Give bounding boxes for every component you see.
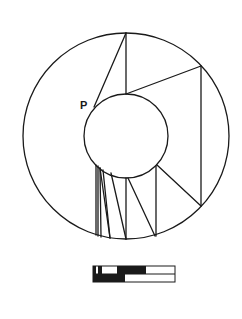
annulus-diagram: P — [0, 0, 242, 319]
chord-line — [111, 173, 126, 239]
geometric-figure — [23, 33, 229, 239]
scale-bar-segment — [98, 266, 102, 274]
chord-lines — [94, 33, 201, 239]
scale-bar-segment — [125, 274, 175, 282]
chord-line — [126, 66, 201, 94]
chord-line — [94, 33, 126, 107]
scale-bar-segment — [146, 266, 175, 274]
scale-bar-segment — [102, 266, 117, 274]
chord-line — [157, 165, 201, 206]
chord-line — [128, 178, 155, 236]
scale-bar — [93, 266, 175, 282]
chord-line — [103, 170, 110, 238]
point-labels: P — [80, 99, 87, 111]
scale-bar-segment — [117, 266, 146, 274]
label-point-p: P — [80, 99, 87, 111]
scale-bar-segment — [93, 274, 125, 282]
scale-bar-segment — [96, 266, 98, 274]
